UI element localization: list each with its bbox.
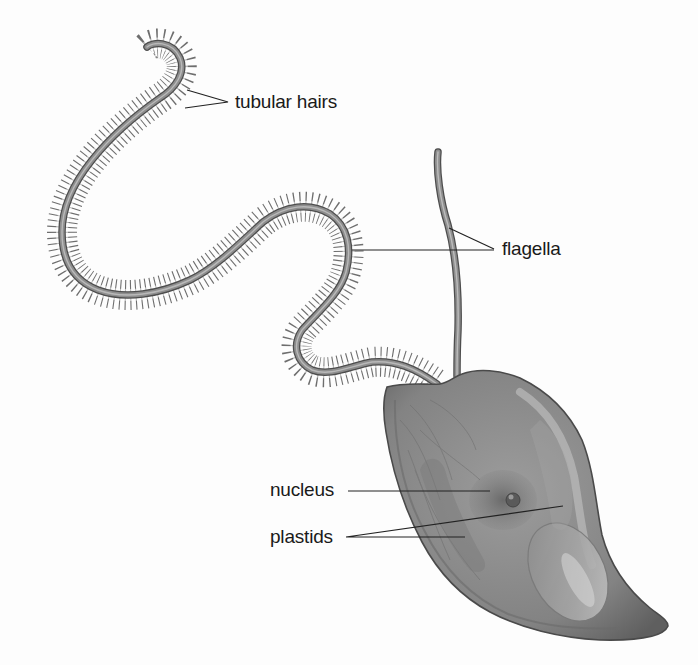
cell-body bbox=[384, 371, 668, 641]
label-flagella: flagella bbox=[502, 239, 561, 258]
smooth-flagellum bbox=[437, 152, 458, 376]
nucleus bbox=[469, 470, 537, 530]
label-nucleus: nucleus bbox=[270, 480, 334, 499]
cell-illustration bbox=[0, 0, 698, 665]
label-plastids: plastids bbox=[270, 527, 333, 546]
leader-tubular-hairs bbox=[185, 90, 228, 108]
diagram-canvas: tubular hairs flagella nucleus plastids bbox=[0, 0, 698, 665]
label-tubular-hairs: tubular hairs bbox=[235, 92, 337, 111]
nucleolus bbox=[506, 493, 520, 507]
